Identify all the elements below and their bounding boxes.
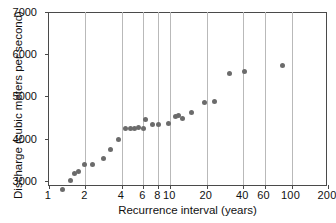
scatter-chart: 30004000500060007000 Discharge (cubic me… [0,0,336,223]
y-tick-7000 [45,12,49,13]
data-point [150,122,155,127]
x-tick-label-20: 20 [199,189,212,201]
data-point [212,99,217,104]
gridline-x-4 [122,12,123,185]
x-tick-label-40: 40 [236,189,249,201]
data-point [116,137,121,142]
plot-top-border [49,12,327,13]
data-point [90,162,95,167]
x-tick-label-6: 6 [139,189,145,201]
y-tick-6000 [45,54,49,55]
plot-area [48,12,327,186]
data-point [141,126,146,131]
data-point [227,71,232,76]
gridline-x-20 [207,12,208,185]
gridline-x-100 [292,12,293,185]
data-point [60,187,65,192]
x-tick-label-8: 8 [154,189,160,201]
data-point [76,169,81,174]
gridline-x-10 [170,12,171,185]
gridline-x-2 [85,12,86,185]
data-point [108,147,113,152]
y-tick-5000 [45,96,49,97]
data-point [280,63,285,68]
y-axis-title: Discharge (cubic meters per second) [12,10,24,200]
x-tick-label-2: 2 [81,189,87,201]
data-point [242,69,247,74]
x-tick-label-100: 100 [281,189,300,201]
gridline-x-40 [243,12,244,185]
y-tick-3000 [45,181,49,182]
data-point [202,100,207,105]
x-axis-title: Recurrence interval (years) [48,204,327,216]
data-point [189,110,194,115]
gridline-x-6 [143,12,144,185]
plot-right-border [326,12,327,185]
data-point [143,117,148,122]
data-point [101,156,106,161]
data-point [68,178,73,183]
data-point [156,122,161,127]
x-tick-label-4: 4 [118,189,124,201]
x-tick-label-1: 1 [45,189,51,201]
x-tick-label-60: 60 [257,189,270,201]
x-tick-label-200: 200 [318,189,336,201]
gridline-x-8 [158,12,159,185]
gridline-x-60 [265,12,266,185]
y-tick-4000 [45,139,49,140]
data-point [180,116,185,121]
x-tick-label-10: 10 [163,189,176,201]
